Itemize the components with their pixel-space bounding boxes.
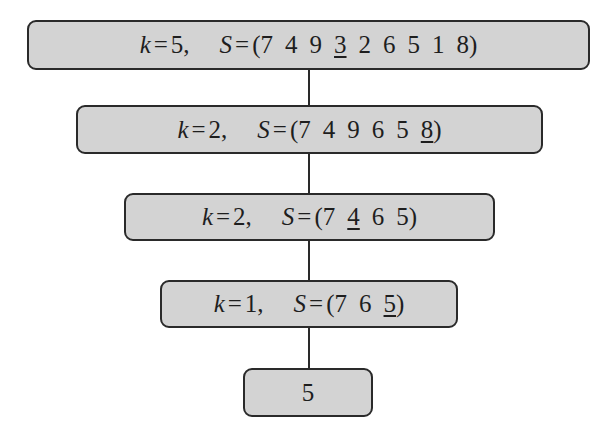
k-variable: k xyxy=(202,203,213,231)
sequence-element: 5 xyxy=(408,31,421,59)
node-2: k=2,S=(749658) xyxy=(76,105,543,154)
close-paren: ) xyxy=(396,290,404,318)
sequence-element: 1 xyxy=(432,31,445,59)
sequence-element: 4 xyxy=(285,31,298,59)
sequence-element: 6 xyxy=(372,116,385,144)
sequence-element: 4 xyxy=(323,116,336,144)
k-variable: k xyxy=(177,116,188,144)
sequence-element: 6 xyxy=(372,203,385,231)
equals-sign: = xyxy=(297,203,311,231)
sequence-element: 5 xyxy=(396,203,409,231)
s-variable: S xyxy=(257,116,270,144)
sequence-element: 7 xyxy=(323,203,336,231)
node-1: k=5,S=(749326518) xyxy=(27,20,590,70)
equals-sign: = xyxy=(154,31,168,59)
open-paren: ( xyxy=(314,203,322,231)
open-paren: ( xyxy=(252,31,260,59)
sequence-element: 9 xyxy=(310,31,323,59)
k-value: 1, xyxy=(245,290,264,318)
close-paren: ) xyxy=(409,203,417,231)
k-value: 5, xyxy=(171,31,190,59)
open-paren: ( xyxy=(326,290,334,318)
equals-sign: = xyxy=(216,203,230,231)
result-node: 5 xyxy=(243,368,373,417)
node-3: k=2,S=(7465) xyxy=(124,193,495,241)
equals-sign: = xyxy=(228,290,242,318)
result-value: 5 xyxy=(302,379,315,407)
pivot-element: 3 xyxy=(334,31,347,59)
sequence-element: 6 xyxy=(359,290,372,318)
sequence-element: 7 xyxy=(335,290,348,318)
sequence-element: 5 xyxy=(396,116,409,144)
sequence-element: 2 xyxy=(359,31,372,59)
k-value: 2, xyxy=(209,116,228,144)
sequence-element: 7 xyxy=(298,116,311,144)
k-value: 2, xyxy=(233,203,252,231)
equals-sign: = xyxy=(309,290,323,318)
open-paren: ( xyxy=(290,116,298,144)
connector-1-2 xyxy=(308,68,310,106)
equals-sign: = xyxy=(235,31,249,59)
pivot-element: 5 xyxy=(384,290,397,318)
connector-3-4 xyxy=(308,239,310,281)
connector-4-5 xyxy=(308,326,310,369)
pivot-element: 8 xyxy=(421,116,434,144)
s-variable: S xyxy=(220,31,233,59)
equals-sign: = xyxy=(191,116,205,144)
connector-2-3 xyxy=(308,152,310,194)
s-variable: S xyxy=(282,203,295,231)
equals-sign: = xyxy=(273,116,287,144)
k-variable: k xyxy=(214,290,225,318)
node-4: k=1,S=(765) xyxy=(160,280,458,328)
sequence-element: 7 xyxy=(261,31,274,59)
sequence-element: 6 xyxy=(383,31,396,59)
s-variable: S xyxy=(294,290,307,318)
pivot-element: 4 xyxy=(347,203,360,231)
close-paren: ) xyxy=(433,116,441,144)
k-variable: k xyxy=(140,31,151,59)
close-paren: ) xyxy=(469,31,477,59)
sequence-element: 9 xyxy=(347,116,360,144)
sequence-element: 8 xyxy=(457,31,470,59)
